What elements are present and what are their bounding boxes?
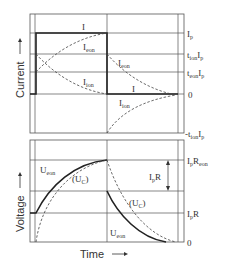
arrow-head-icon [18,38,22,42]
arrow-head-icon [18,172,22,176]
label-I-top: I [82,22,85,32]
voltage-axis-title: Voltage [14,172,26,232]
tick-label-tion-ip: tionIp [187,50,203,61]
time-axis-title: Time [80,248,128,260]
tick-label-neg-tion-ip: -tionIp [185,129,204,140]
label-iion-1: Iion [83,77,94,88]
arrow-head-icon [124,252,128,256]
svg-text:Time: Time [80,248,104,260]
tick-label-ip: Ip [187,29,193,40]
svg-text:Voltage: Voltage [14,195,26,232]
label-ueon-1: Ueon [40,165,55,176]
tick-label-zero-voltage: 0 [187,238,192,248]
curve-iion-negative [107,95,176,133]
curve-iion-decay [36,54,107,94]
curve-total-current [30,33,178,94]
label-ieon-1: Ieon [83,42,95,53]
tick-label-zero-current: 0 [188,90,193,100]
label-uc-1: (UC) [72,174,89,185]
label-ipr-span: IpR [149,172,161,183]
current-voltage-diagram: I Ieon Iion Ieon I Iion Ip tionIp teonIp… [0,0,225,270]
svg-text:Current: Current [14,61,26,98]
arrow-up-icon [166,160,170,165]
curve-uc-decay [107,160,176,242]
label-ieon-2: Ieon [118,58,130,69]
label-I-bottom: I [132,84,135,94]
tick-label-ipr: IpR [187,209,199,220]
voltage-panel: Ueon (UC) IpR (UC) Ueon IpReon IpR 0 Vol… [14,140,208,260]
curve-ieon-rise [36,33,107,72]
label-ueon-2: Ueon [110,228,125,239]
current-panel: I Ieon Iion Ieon I Iion Ip tionIp teonIp… [14,14,204,140]
current-axis-title: Current [14,38,26,98]
label-iion-2: Iion [119,98,130,109]
tick-label-teon-ip: teonIp [187,68,204,79]
tick-label-ipreon: IpReon [187,156,208,167]
label-uc-2: (UC) [129,198,146,209]
arrow-down-icon [166,186,170,191]
